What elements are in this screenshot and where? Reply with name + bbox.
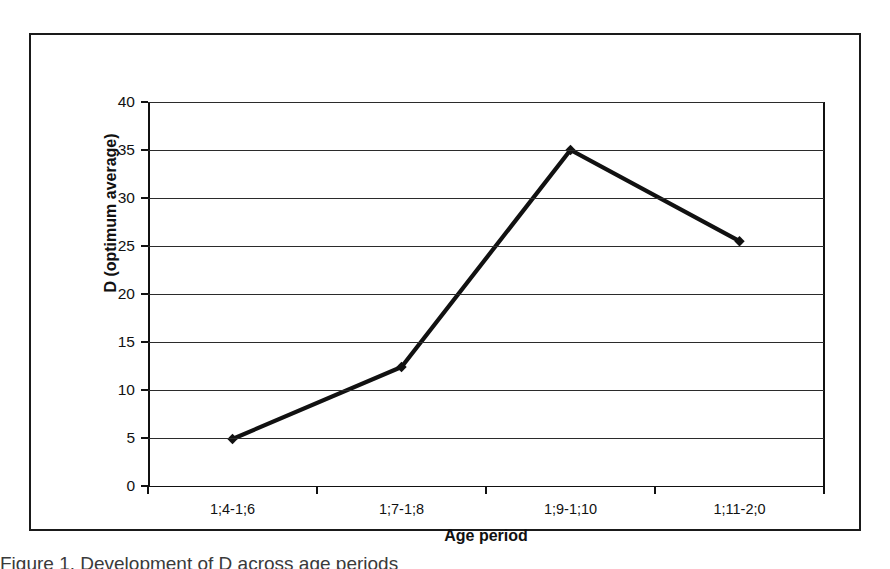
gridline-35	[148, 150, 824, 151]
y-tick-mark-40	[141, 101, 148, 103]
y-tick-mark-0	[141, 485, 148, 487]
y-tick-label-5: 5	[95, 430, 135, 446]
x-tick-mark-2	[485, 486, 487, 494]
x-tick-label-3: 1;11-2;0	[655, 501, 824, 517]
y-axis-title: D (optimum average)	[102, 63, 120, 363]
y-tick-mark-35	[141, 149, 148, 151]
y-tick-label-0: 0	[95, 478, 135, 494]
plot-area	[148, 102, 824, 486]
y-tick-mark-5	[141, 437, 148, 439]
x-tick-label-2: 1;9-1;10	[486, 501, 655, 517]
figure-frame: 0510152025303540 D (optimum average) 1;4…	[29, 33, 861, 531]
x-axis-tick-labels: 1;4-1;61;7-1;81;9-1;101;11-2;0	[148, 501, 824, 525]
x-tick-mark-3	[654, 486, 656, 494]
gridline-30	[148, 198, 824, 199]
x-tick-label-0: 1;4-1;6	[148, 501, 317, 517]
figure-caption-text: Figure 1. Development of D across age pe…	[0, 556, 890, 569]
y-tick-mark-20	[141, 293, 148, 295]
figure-caption: Figure 1. Development of D across age pe…	[0, 556, 890, 569]
gridline-20	[148, 294, 824, 295]
x-axis-title: Age period	[148, 527, 824, 545]
x-tick-mark-4	[823, 486, 825, 494]
gridline-5	[148, 438, 824, 439]
y-tick-mark-10	[141, 389, 148, 391]
figure-page: 0510152025303540 D (optimum average) 1;4…	[0, 0, 890, 569]
y-tick-label-10: 10	[95, 382, 135, 398]
gridline-40	[148, 102, 824, 103]
gridline-10	[148, 390, 824, 391]
gridline-25	[148, 246, 824, 247]
y-tick-mark-30	[141, 197, 148, 199]
y-tick-mark-25	[141, 245, 148, 247]
gridline-15	[148, 342, 824, 343]
x-tick-mark-0	[147, 486, 149, 494]
x-tick-label-1: 1;7-1;8	[317, 501, 486, 517]
y-tick-mark-15	[141, 341, 148, 343]
x-tick-mark-1	[316, 486, 318, 494]
